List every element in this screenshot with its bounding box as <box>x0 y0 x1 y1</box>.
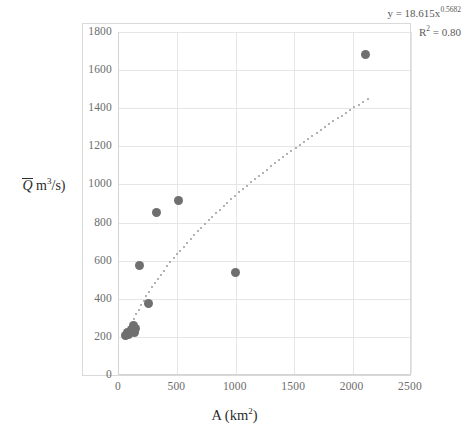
trendline-dot <box>193 234 195 236</box>
y-tick-label: 1800 <box>76 26 112 38</box>
gridline-horizontal <box>119 299 410 300</box>
trendline-dot <box>230 198 232 200</box>
y-tick-label: 400 <box>76 293 112 305</box>
data-point <box>135 261 144 270</box>
trendline-dot <box>349 109 351 111</box>
y-tick-label: 1000 <box>76 179 112 191</box>
data-point <box>144 299 153 308</box>
trendline-dot <box>332 120 334 122</box>
trendline-dot <box>219 209 221 211</box>
trendline-dot <box>157 278 159 280</box>
trendline-dot <box>211 216 213 218</box>
trendline-dot <box>320 129 322 131</box>
trendline-dot <box>341 115 343 117</box>
trendline-dot <box>204 223 206 225</box>
trendline-dot <box>250 181 252 183</box>
y-tick-label: 200 <box>76 331 112 343</box>
x-tick-label: 500 <box>151 381 201 393</box>
trendline-dot <box>311 135 313 137</box>
y-tick-label: 800 <box>76 217 112 229</box>
plot-area <box>118 32 410 375</box>
trendline-dot <box>200 227 202 229</box>
trendline-dot <box>270 165 272 167</box>
x-tick-label: 2000 <box>327 381 377 393</box>
data-point <box>231 268 240 277</box>
trendline-dot <box>148 291 150 293</box>
trendline-dot <box>307 138 309 140</box>
gridline-vertical <box>236 32 237 374</box>
trendline-dot <box>226 202 228 204</box>
trendline-dot <box>135 313 137 315</box>
trendline-dot <box>266 169 268 171</box>
gridline-horizontal <box>119 108 410 109</box>
x-tick-label: 0 <box>93 381 143 393</box>
trendline-dot <box>238 191 240 193</box>
x-tick-label: 1500 <box>268 381 318 393</box>
gridline-vertical <box>411 32 412 374</box>
trendline-dot <box>367 98 369 100</box>
trendline-dot <box>258 175 260 177</box>
r-squared-text: R2 = 0.80 <box>387 21 461 40</box>
trendline-dot <box>223 205 225 207</box>
q-bar-symbol: Q <box>22 178 32 194</box>
trendline-dot <box>151 286 153 288</box>
trendline-dot <box>295 147 297 149</box>
y-tick-label: 1400 <box>76 102 112 114</box>
trendline-dot <box>197 230 199 232</box>
gridline-horizontal <box>119 70 410 71</box>
x-tick-label: 1000 <box>210 381 260 393</box>
gridline-horizontal <box>119 337 410 338</box>
trendline-dot <box>290 150 292 152</box>
trendline-dot <box>254 178 256 180</box>
trendline-dot <box>166 265 168 267</box>
trendline-equation-annotation: y = 18.615x0.5682 R2 = 0.80 <box>387 2 461 39</box>
trendline-dot <box>337 117 339 119</box>
y-tick-label: 0 <box>76 369 112 381</box>
gridline-horizontal <box>119 32 410 33</box>
trendline-dot <box>303 141 305 143</box>
gridline-horizontal <box>119 184 410 185</box>
trendline-dot <box>154 282 156 284</box>
trendline-dot <box>345 112 347 114</box>
data-point <box>361 50 370 59</box>
data-point <box>129 321 138 330</box>
equation-text: y = 18.615x0.5682 <box>387 2 461 21</box>
x-axis-title: A (km2) <box>0 406 469 424</box>
data-point <box>174 196 183 205</box>
trendline-dot <box>278 159 280 161</box>
data-point <box>152 208 161 217</box>
trendline-dot <box>208 219 210 221</box>
trendline-dot <box>173 257 175 259</box>
trendline-dot <box>316 132 318 134</box>
trendline-dot <box>362 101 364 103</box>
y-axis-title: Q m3/s) <box>8 176 80 194</box>
trendline-dot <box>262 172 264 174</box>
trendline-dot <box>282 156 284 158</box>
trendline-dot <box>190 238 192 240</box>
trendline-dot <box>286 153 288 155</box>
trendline-dot <box>324 126 326 128</box>
trendline-dot <box>246 185 248 187</box>
trendline-dot <box>179 250 181 252</box>
y-tick-label: 1600 <box>76 64 112 76</box>
x-tick-label: 2500 <box>385 381 435 393</box>
trendline-dot <box>186 242 188 244</box>
trendline-dot <box>183 246 185 248</box>
trendline-dot <box>242 188 244 190</box>
trendline-dot <box>138 309 140 311</box>
trendline-dot <box>328 123 330 125</box>
trendline-dot <box>163 270 165 272</box>
trendline-dot <box>274 162 276 164</box>
trendline-dot <box>145 295 147 297</box>
y-tick-label: 1200 <box>76 141 112 153</box>
gridline-horizontal <box>119 261 410 262</box>
gridline-vertical <box>353 32 354 374</box>
trendline-dot <box>215 212 217 214</box>
y-tick-label: 600 <box>76 255 112 267</box>
trendline-dot <box>160 274 162 276</box>
trendline-dot <box>140 304 142 306</box>
trendline-dot <box>133 318 135 320</box>
gridline-horizontal <box>119 146 410 147</box>
trendline-dot <box>299 144 301 146</box>
trendline-dot <box>358 104 360 106</box>
